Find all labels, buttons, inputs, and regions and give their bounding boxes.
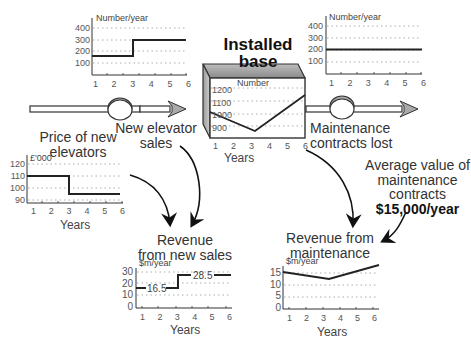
lost-x-ticks: 123456 <box>329 78 426 88</box>
base-x-ticks: 123456 <box>213 141 308 151</box>
arrow-price-to-revenue <box>130 175 170 224</box>
base-y-ticks: 120011001000900 <box>212 84 232 135</box>
price-x-ticks: 123456 <box>31 206 125 216</box>
arrow-base-to-maint-revenue <box>306 150 353 225</box>
price-unit-label: £'000 <box>30 153 52 163</box>
base-x-axis-label: Years <box>224 151 254 165</box>
sales-unit-label: Number/year <box>96 13 148 23</box>
revenue-maintenance-x-ticks: 123456 <box>287 313 377 323</box>
price-series-line <box>27 176 120 194</box>
revenue-sales-x-ticks: 123456 <box>140 312 232 322</box>
revenue-sales-x-axis-label: Years <box>170 323 200 337</box>
outflow-valve <box>330 96 354 119</box>
outflow-label: Maintenancecontracts lost <box>310 121 410 150</box>
outflow-pipe <box>306 101 418 117</box>
price-y-ticks: 12011010090 <box>6 158 25 206</box>
revenue-sales-y-ticks: 3020100 <box>118 266 133 313</box>
revenue-maintenance-series-line <box>283 265 379 279</box>
sales-series-line <box>92 40 186 56</box>
sales-x-ticks: 123456 <box>93 79 191 89</box>
lost-unit-label: Number/year <box>329 12 381 22</box>
revenue-sales-unit-label: $m/year <box>139 258 172 268</box>
revenue-maintenance-x-axis-label: Years <box>317 325 347 339</box>
inflow-valve <box>108 98 132 120</box>
chart-new-elevator-sales <box>92 18 187 75</box>
annotation-16-5: 16.5 <box>147 283 166 294</box>
avg-contract-value-label: Average value ofmaintenancecontracts $15… <box>364 158 471 217</box>
annotation-28-5: 28.5 <box>193 270 212 281</box>
arrow-sales-to-revenue <box>180 146 200 225</box>
chart-revenue-maintenance <box>283 265 379 309</box>
revenue-maintenance-y-ticks: 151050 <box>266 267 281 314</box>
lost-y-ticks: 400300200100 <box>305 21 323 68</box>
base-unit-label: Number <box>237 78 269 88</box>
price-x-axis-label: Years <box>60 218 90 232</box>
revenue-maintenance-unit-label: $m/year <box>286 256 319 266</box>
installed-base-title: Installedbase <box>210 36 306 70</box>
chart-maintenance-contracts-lost <box>326 16 422 74</box>
avg-contract-value: $15,000/year <box>364 202 471 217</box>
sales-y-ticks: 400300200100 <box>72 23 90 70</box>
